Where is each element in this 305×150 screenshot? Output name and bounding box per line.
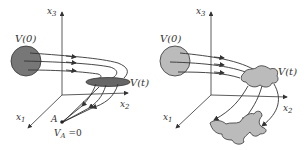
left-attractor-point-a — [60, 120, 64, 124]
right-x2-label: x2 — [283, 103, 293, 115]
left-initial-volume-label: V(0) — [15, 33, 36, 44]
point-a-volume-label: VA =0 — [54, 128, 82, 140]
right-trajectory-arrows — [214, 57, 224, 73]
left-x2-label: x2 — [120, 99, 130, 111]
left-x3-label: x3 — [47, 6, 57, 18]
right-x3-label: x3 — [196, 6, 206, 18]
right-final-volume-label: V(t) — [278, 66, 297, 77]
point-a-label: A — [50, 114, 58, 124]
left-panel: x3 x2 x1 V(0) V(t) A VA =0 — [11, 6, 149, 140]
left-collapse-trajectories — [62, 84, 118, 122]
right-x1-axis — [176, 95, 211, 128]
left-final-volume-label: V(t) — [130, 77, 149, 88]
left-x2-axis — [62, 93, 128, 95]
left-x1-label: x1 — [16, 112, 26, 124]
right-final-volume-blob — [241, 66, 278, 87]
right-deformed-volume-blob — [210, 111, 266, 144]
phase-volume-diagram: x3 x2 x1 V(0) V(t) A VA =0 — [0, 0, 305, 150]
right-initial-volume-sphere — [160, 46, 190, 76]
right-x2-axis — [211, 95, 287, 97]
right-initial-volume-label: V(0) — [160, 33, 181, 44]
left-final-volume-disk — [86, 78, 130, 87]
right-panel: x3 x2 x1 V(0) V(t) — [160, 6, 297, 144]
right-x1-label: x1 — [163, 112, 173, 124]
